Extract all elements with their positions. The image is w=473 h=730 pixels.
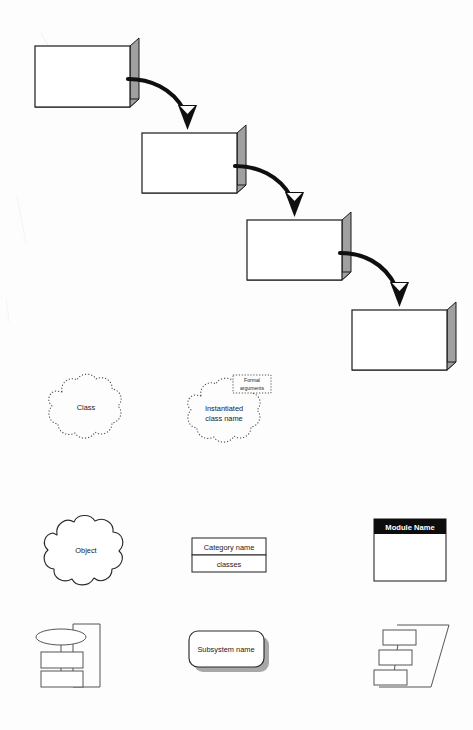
processor-box-3 — [374, 670, 407, 685]
class-category-box[interactable]: Category name classes — [192, 538, 266, 572]
formal-arguments-box[interactable]: Formal arguments — [233, 375, 271, 393]
box-4-side-face — [447, 302, 456, 370]
processor-diagram-symbol[interactable] — [374, 625, 449, 687]
box-2-front-face — [142, 133, 237, 193]
instantiated-class-label-line2: class name — [205, 414, 242, 423]
box-3-front-face — [247, 220, 342, 280]
module-header-label: Module Name — [385, 523, 434, 532]
box-1-side-face — [130, 38, 139, 107]
formal-arguments-label-line2: arguments — [240, 385, 265, 391]
category-row-1-label: Category name — [204, 543, 255, 552]
box-1-front-face — [35, 46, 130, 107]
object-cloud-label: Object — [75, 546, 96, 555]
class-cloud-label: Class — [77, 403, 96, 412]
box-3-side-face — [342, 212, 351, 280]
processor-box-2 — [379, 650, 412, 665]
module-box[interactable]: Module Name — [374, 519, 446, 581]
formal-arguments-label-line1: Formal — [244, 377, 260, 383]
box-4-front-face — [352, 310, 447, 370]
process-diagram-symbol[interactable] — [36, 624, 100, 687]
three-d-box-4[interactable] — [352, 302, 456, 370]
instantiated-class-cloud[interactable]: Instantiated class name Formal arguments — [188, 375, 271, 442]
box-2-side-face — [237, 125, 246, 193]
class-cloud[interactable]: Class — [49, 374, 121, 438]
subsystem-box[interactable]: Subsystem name — [189, 631, 269, 672]
three-d-box-cascade — [35, 38, 456, 370]
processor-box-1 — [383, 630, 416, 645]
category-row-2-label: classes — [217, 560, 242, 569]
instantiated-class-label-line1: Instantiated — [205, 404, 243, 413]
three-d-box-1[interactable] — [35, 38, 139, 107]
subsystem-box-label: Subsystem name — [197, 645, 254, 654]
process-rect-1 — [41, 652, 83, 668]
three-d-box-3[interactable] — [247, 212, 351, 280]
process-rect-2 — [41, 671, 83, 687]
diagram-canvas: Class Instantiated class name Formal arg… — [0, 0, 473, 730]
object-cloud[interactable]: Object — [44, 515, 123, 584]
diagram-page: Class Instantiated class name Formal arg… — [0, 0, 473, 730]
three-d-box-2[interactable] — [142, 125, 246, 193]
process-ellipse — [36, 629, 86, 645]
